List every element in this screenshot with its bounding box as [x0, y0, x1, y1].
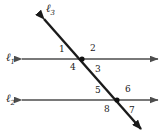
angle-label-8: 8 [104, 105, 110, 114]
line-label-l1-subscript: 1 [11, 58, 15, 66]
angle-label-6: 6 [125, 85, 131, 94]
angle-label-5: 5 [95, 86, 101, 95]
angle-label-4: 4 [70, 63, 76, 72]
line-label-l2-subscript: 2 [11, 99, 15, 107]
geometry-diagram: ℓ1 ℓ2 ℓ3 1 2 3 4 5 6 7 8 [0, 0, 165, 135]
angle-label-1: 1 [59, 45, 65, 54]
line-label-l3: ℓ3 [46, 3, 55, 17]
line-label-l3-subscript: 3 [51, 9, 55, 17]
lower-intersection-point [114, 97, 119, 102]
angle-label-2: 2 [90, 44, 96, 53]
angle-label-3: 3 [95, 65, 101, 74]
line-label-l2: ℓ2 [6, 93, 15, 107]
line-label-l1: ℓ1 [6, 52, 15, 66]
line-l3-transversal [44, 19, 141, 129]
diagram-canvas [0, 0, 165, 135]
upper-intersection-point [79, 56, 84, 61]
angle-label-7: 7 [129, 106, 135, 115]
